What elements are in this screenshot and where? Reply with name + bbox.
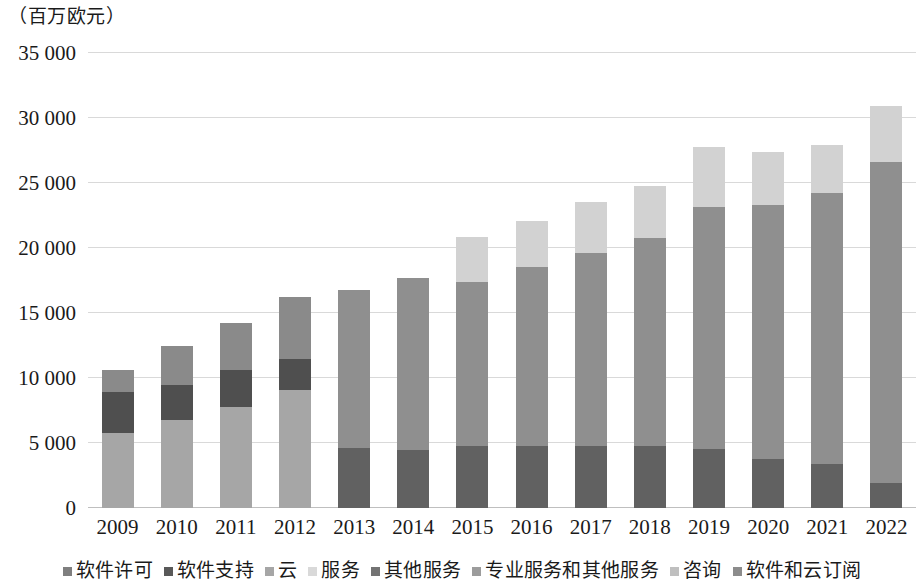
- bar-segment[interactable]: [575, 253, 607, 445]
- legend-swatch-icon: [308, 567, 317, 576]
- bar-stack[interactable]: [634, 186, 666, 508]
- bar-segment[interactable]: [161, 385, 193, 421]
- bar-segment[interactable]: [811, 193, 843, 464]
- bar-group[interactable]: [102, 53, 134, 508]
- bar-segment[interactable]: [752, 459, 784, 508]
- bar-segment[interactable]: [161, 346, 193, 384]
- bar-segment[interactable]: [516, 446, 548, 508]
- legend-item[interactable]: 专业服务和其他服务: [472, 560, 659, 582]
- x-tick-label: 2021: [798, 514, 857, 540]
- bar-group[interactable]: [575, 53, 607, 508]
- x-tick-label: 2018: [620, 514, 679, 540]
- bar-segment[interactable]: [516, 267, 548, 446]
- legend-item[interactable]: 软件支持: [164, 560, 254, 582]
- bar-stack[interactable]: [338, 290, 370, 508]
- bar-group[interactable]: [693, 53, 725, 508]
- bar-segment[interactable]: [102, 370, 134, 393]
- bar-segment[interactable]: [811, 145, 843, 194]
- bar-group[interactable]: [456, 53, 488, 508]
- bar-segment[interactable]: [338, 448, 370, 508]
- legend-swatch-icon: [371, 567, 380, 576]
- bar-segment[interactable]: [456, 237, 488, 283]
- bar-group[interactable]: [634, 53, 666, 508]
- bar-segment[interactable]: [693, 207, 725, 449]
- bar-segment[interactable]: [752, 152, 784, 205]
- bar-stack[interactable]: [102, 370, 134, 508]
- legend-item[interactable]: 云: [265, 560, 297, 582]
- bar-segment[interactable]: [634, 186, 666, 239]
- bar-stack[interactable]: [220, 323, 252, 508]
- bar-stack[interactable]: [397, 278, 429, 508]
- x-tick-label: 2010: [147, 514, 206, 540]
- bar-group[interactable]: [279, 53, 311, 508]
- legend-item[interactable]: 软件和云订阅: [733, 560, 862, 582]
- bar-segment[interactable]: [220, 407, 252, 508]
- bar-segment[interactable]: [279, 297, 311, 359]
- bar-segment[interactable]: [811, 464, 843, 508]
- x-tick-label: 2016: [502, 514, 561, 540]
- bar-segment[interactable]: [575, 202, 607, 253]
- y-tick-label: 15 000: [0, 303, 76, 324]
- bar-stack[interactable]: [693, 147, 725, 508]
- bar-segment[interactable]: [102, 392, 134, 433]
- legend-label: 咨询: [683, 560, 722, 582]
- bar-group[interactable]: [338, 53, 370, 508]
- bar-segment[interactable]: [220, 323, 252, 370]
- bar-segment[interactable]: [752, 205, 784, 459]
- bar-group[interactable]: [161, 53, 193, 508]
- bar-segment[interactable]: [397, 278, 429, 450]
- y-axis-unit-caption: （百万欧元）: [8, 6, 125, 28]
- legend-item[interactable]: 服务: [308, 560, 360, 582]
- y-tick-label: 5 000: [0, 433, 76, 454]
- legend-swatch-icon: [733, 567, 742, 576]
- bar-segment[interactable]: [870, 483, 902, 508]
- bar-stack[interactable]: [575, 202, 607, 508]
- x-tick-label: 2012: [265, 514, 324, 540]
- bar-segment[interactable]: [634, 446, 666, 508]
- bar-group[interactable]: [397, 53, 429, 508]
- legend-label: 软件支持: [177, 560, 254, 582]
- bar-segment[interactable]: [279, 359, 311, 390]
- bar-segment[interactable]: [220, 370, 252, 407]
- bar-segment[interactable]: [693, 449, 725, 508]
- bar-group[interactable]: [752, 53, 784, 508]
- bar-stack[interactable]: [870, 106, 902, 508]
- bar-segment[interactable]: [456, 282, 488, 445]
- legend-item[interactable]: 咨询: [670, 560, 722, 582]
- bar-stack[interactable]: [456, 237, 488, 508]
- bar-group[interactable]: [516, 53, 548, 508]
- bar-stack[interactable]: [161, 346, 193, 508]
- bars-layer: [88, 53, 916, 508]
- bar-segment[interactable]: [516, 221, 548, 267]
- bar-segment[interactable]: [456, 446, 488, 508]
- bar-segment[interactable]: [575, 446, 607, 508]
- bar-group[interactable]: [811, 53, 843, 508]
- x-tick-label: 2009: [88, 514, 147, 540]
- x-tick-label: 2022: [857, 514, 916, 540]
- bar-segment[interactable]: [634, 238, 666, 446]
- bar-stack[interactable]: [811, 145, 843, 508]
- legend-label: 云: [278, 560, 297, 582]
- chart-legend: 软件许可软件支持云服务其他服务专业服务和其他服务咨询软件和云订阅: [0, 556, 924, 586]
- bar-segment[interactable]: [338, 290, 370, 449]
- bar-segment[interactable]: [279, 390, 311, 508]
- bar-group[interactable]: [870, 53, 902, 508]
- legend-item[interactable]: 其他服务: [371, 560, 461, 582]
- y-tick-label: 0: [0, 498, 76, 519]
- bar-segment[interactable]: [161, 420, 193, 508]
- legend-swatch-icon: [265, 567, 274, 576]
- x-axis-labels: 2009201020112012201320142015201620172018…: [88, 514, 916, 544]
- bar-segment[interactable]: [102, 433, 134, 508]
- bar-segment[interactable]: [397, 450, 429, 508]
- bar-group[interactable]: [220, 53, 252, 508]
- bar-stack[interactable]: [279, 297, 311, 508]
- bar-segment[interactable]: [870, 106, 902, 163]
- bar-stack[interactable]: [752, 152, 784, 508]
- y-tick-label: 10 000: [0, 368, 76, 389]
- legend-item[interactable]: 软件许可: [63, 560, 153, 582]
- bar-segment[interactable]: [693, 147, 725, 207]
- bar-segment[interactable]: [870, 162, 902, 482]
- bar-stack[interactable]: [516, 221, 548, 508]
- y-tick-label: 35 000: [0, 43, 76, 64]
- legend-swatch-icon: [164, 567, 173, 576]
